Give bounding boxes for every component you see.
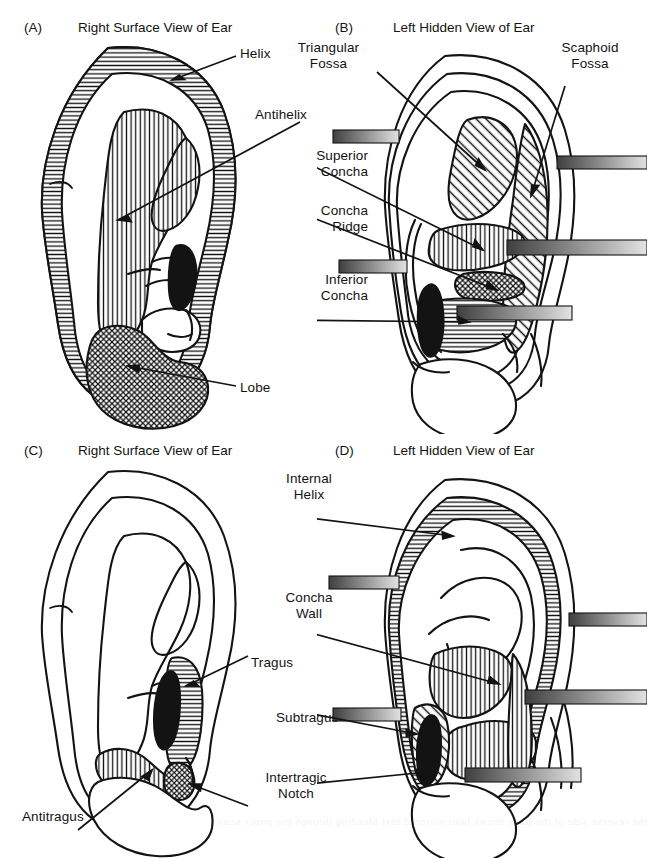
panel-d-title: Left Hidden View of Ear: [393, 443, 535, 458]
panel-c-tag: (C): [24, 443, 43, 458]
label-antitragus: Antitragus: [22, 809, 84, 825]
label-triangular-fossa: Triangular Fossa: [286, 40, 371, 71]
label-lobe: Lobe: [240, 380, 270, 396]
panel-a-drawing: [0, 34, 330, 434]
label-helix: Helix: [240, 46, 271, 62]
panel-d-drawing: [317, 458, 647, 858]
panel-a-tag: (A): [24, 20, 42, 35]
label-scaphoid-fossa: Scaphoid Fossa: [548, 40, 632, 71]
label-inferior-concha: Inferior Concha: [282, 272, 368, 303]
panel-d-tag: (D): [335, 443, 354, 458]
panel-a-title: Right Surface View of Ear: [78, 20, 232, 35]
label-internal-helix: Internal Helix: [264, 471, 354, 502]
label-concha-ridge: Concha Ridge: [282, 203, 368, 234]
label-tragus: Tragus: [251, 655, 293, 671]
label-concha-wall: Concha Wall: [264, 590, 354, 621]
label-antihelix: Antihelix: [255, 107, 307, 123]
panel-b-title: Left Hidden View of Ear: [393, 20, 535, 35]
figure-root: (A) Right Surface View of Ear: [0, 0, 647, 861]
panel-b-drawing: [317, 34, 647, 434]
label-superior-concha: Superior Concha: [282, 148, 368, 179]
panel-c-title: Right Surface View of Ear: [78, 443, 232, 458]
panel-b-tag: (B): [335, 20, 353, 35]
